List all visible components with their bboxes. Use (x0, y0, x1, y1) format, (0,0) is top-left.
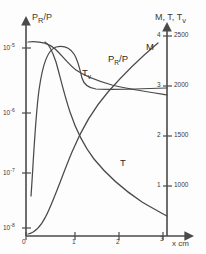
left-tick-label-1e-7: 10-7 (3, 168, 15, 177)
right-t-tick-label-1000: 1000 (174, 182, 188, 189)
left-axis-title: PR/P (32, 13, 52, 24)
right-m-tick-label-3: 3 (157, 82, 161, 89)
right-t-tick-label-2000: 2000 (174, 82, 188, 89)
right-axis-title: M, T, Tv (155, 13, 186, 24)
curve-t (45, 42, 167, 216)
curve-label-m: M (146, 42, 154, 52)
x-tick-label-1: 1 (72, 239, 76, 246)
left-tick-label-1e-5: 10-5 (3, 43, 15, 52)
curve-m (28, 43, 158, 234)
origin-label: 0 (22, 239, 26, 246)
x-axis-title: x cm (172, 240, 189, 248)
left-tick-label-1e-8: 10-8 (3, 223, 15, 232)
right-t-tick-label-1500: 1500 (174, 132, 188, 139)
right-m-tick-label-2: 2 (157, 132, 161, 139)
curve-label-pr-over-p: PR/P (108, 54, 128, 66)
right-m-tick-label-4: 4 (157, 32, 161, 39)
x-tick-label-2: 2 (116, 239, 120, 246)
x-tick-label-3: 3 (160, 236, 164, 243)
left-tick-label-1e-6: 10-6 (3, 108, 15, 117)
right-t-tick-label-2500: 2500 (174, 32, 188, 39)
curve-label-tv: Tv (82, 68, 91, 80)
figure-canvas: PR/P 10-5 10-6 10-7 10-8 0 M, T, Tv 4 3 … (0, 0, 206, 254)
right-m-tick-label-1: 1 (157, 182, 161, 189)
curve-tv (31, 46, 167, 196)
curve-label-t: T (120, 158, 126, 168)
